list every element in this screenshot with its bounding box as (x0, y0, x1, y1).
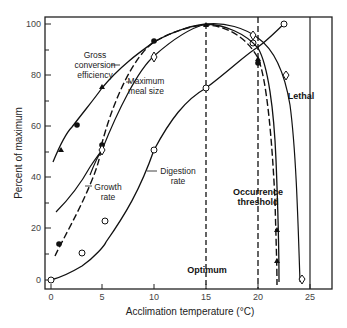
y-tick-80: 80 (31, 70, 41, 80)
x-tick-5: 5 (99, 292, 104, 302)
maximum-meal-size-markers (99, 31, 305, 284)
x-tick-25: 25 (305, 292, 315, 302)
y-tick-60: 60 (31, 121, 41, 131)
label-lethal: Lethal (288, 91, 315, 101)
x-tick-0: 0 (48, 292, 53, 302)
y-axis-label: Percent of maximum (13, 107, 24, 199)
label-occurrence-1: Occurrence (233, 187, 283, 197)
y-tick-100: 100 (26, 19, 41, 29)
growth-rate-solid-curve (56, 150, 102, 212)
label-gce-2: conversion (74, 60, 115, 70)
x-tick-20: 20 (253, 292, 263, 302)
maximum-meal-size-curve (90, 24, 300, 282)
label-optimum: Optimum (187, 265, 227, 275)
label-gr-1: Growth (94, 182, 122, 192)
x-axis-label: Acclimation temperature (°C) (126, 306, 254, 317)
label-mms-1: Maximum (128, 76, 165, 86)
label-dr-1: Digestion (160, 166, 196, 176)
y-axis (45, 24, 51, 280)
chart: 0 20 40 60 80 100 0 5 10 15 20 25 Acclim… (0, 0, 347, 328)
label-gce-1: Gross (84, 50, 107, 60)
x-tick-15: 15 (201, 292, 211, 302)
y-tick-20: 20 (31, 223, 41, 233)
x-axis (51, 284, 310, 289)
x-tick-10: 10 (149, 292, 159, 302)
y-tick-0: 0 (36, 275, 41, 285)
gce-point (74, 122, 80, 128)
y-tick-40: 40 (31, 172, 41, 182)
label-mms-2: meal size (128, 86, 164, 96)
label-dr-2: rate (171, 176, 186, 186)
label-gce-3: efficiency (77, 70, 113, 80)
label-gr-2: rate (101, 192, 116, 202)
label-occurrence-2: threshold (237, 197, 278, 207)
